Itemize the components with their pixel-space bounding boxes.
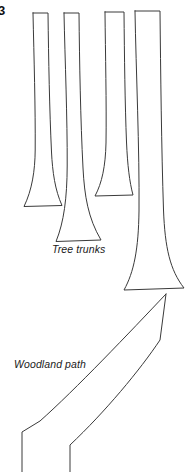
figure-illustration: 3 Tree trunks Woodland path [0,0,189,472]
line-art-drawing [0,0,189,472]
tree-trunks-label: Tree trunks [52,243,105,255]
tree-trunk-1 [24,13,62,207]
woodland-path-label: Woodland path [14,358,86,370]
tree-trunk-3 [95,12,133,196]
tree-trunk-2 [56,13,101,242]
tree-trunk-4 [124,11,184,290]
woodland-path [22,294,166,472]
